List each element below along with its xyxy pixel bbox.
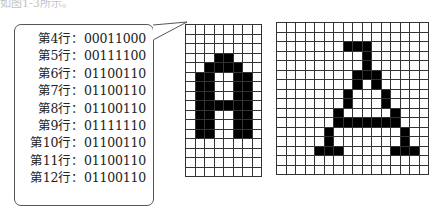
pixel-off: [253, 130, 263, 140]
pixel-off: [325, 33, 335, 43]
pixel-off: [253, 120, 263, 130]
pixel-off: [401, 52, 411, 62]
pixel-off: [334, 61, 344, 71]
pixel-off: [205, 44, 215, 54]
pixel-off: [243, 63, 253, 73]
pixel-off: [344, 128, 354, 138]
pixel-on: [243, 92, 253, 102]
pixel-off: [287, 147, 297, 157]
pixel-off: [287, 42, 297, 52]
pixel-off: [243, 54, 253, 64]
pixel-on: [234, 111, 244, 121]
pixel-on: [196, 130, 206, 140]
pixel-on: [196, 111, 206, 121]
pixel-on: [234, 73, 244, 83]
pixel-off: [344, 137, 354, 147]
pixel-off: [334, 166, 344, 176]
pixel-off: [325, 166, 335, 176]
pixel-on: [196, 92, 206, 102]
pixel-off: [205, 158, 215, 168]
pixel-off: [420, 42, 430, 52]
pixel-on: [205, 73, 215, 83]
pixel-off: [410, 71, 420, 81]
pixel-off: [234, 25, 244, 35]
row-label: 第6行：: [38, 66, 84, 81]
pixel-on: [205, 111, 215, 121]
row-label: 第12行：: [30, 170, 84, 185]
pixel-off: [253, 44, 263, 54]
row-bits: 00011000: [84, 31, 146, 46]
pixel-off: [372, 166, 382, 176]
pixel-off: [391, 166, 401, 176]
row-label: 第5行：: [38, 48, 84, 63]
pixel-off: [382, 23, 392, 33]
pixel-off: [420, 99, 430, 109]
pixel-off: [296, 166, 306, 176]
pixel-off: [334, 137, 344, 147]
pixel-off: [325, 80, 335, 90]
pixel-off: [277, 42, 287, 52]
pixel-on: [344, 118, 354, 128]
row-label: 第10行：: [30, 135, 84, 150]
pixel-off: [306, 61, 316, 71]
pixel-on: [363, 61, 373, 71]
pixel-off: [410, 80, 420, 90]
pixel-off: [243, 149, 253, 159]
pixel-off: [325, 71, 335, 81]
pixel-off: [315, 23, 325, 33]
pixel-off: [186, 101, 196, 111]
pixel-off: [296, 156, 306, 166]
pixel-off: [306, 71, 316, 81]
pixel-off: [353, 109, 363, 119]
pixel-off: [334, 23, 344, 33]
pixel-off: [253, 63, 263, 73]
pixel-off: [315, 80, 325, 90]
pixel-off: [277, 109, 287, 119]
pixel-off: [224, 168, 234, 178]
pixel-off: [391, 99, 401, 109]
pixel-off: [196, 44, 206, 54]
pixel-off: [277, 33, 287, 43]
pixel-off: [401, 156, 411, 166]
row-bits: 01100110: [84, 83, 146, 98]
pixel-off: [420, 128, 430, 138]
pixel-on: [315, 147, 325, 157]
pixel-off: [287, 71, 297, 81]
pixel-off: [224, 73, 234, 83]
pixel-off: [325, 42, 335, 52]
pixel-off: [410, 137, 420, 147]
pixel-off: [277, 61, 287, 71]
pixel-off: [243, 25, 253, 35]
row-label: 第4行：: [38, 31, 84, 46]
pixel-off: [410, 156, 420, 166]
pixel-off: [234, 158, 244, 168]
pixel-off: [353, 156, 363, 166]
row-bits: 01100110: [84, 170, 146, 185]
pixel-off: [243, 158, 253, 168]
pixel-off: [205, 25, 215, 35]
row-bits: 01100110: [84, 135, 146, 150]
pixel-off: [215, 25, 225, 35]
bubble-tail: [153, 20, 189, 44]
pixel-off: [287, 166, 297, 176]
pixel-off: [344, 61, 354, 71]
pixel-off: [353, 90, 363, 100]
pixel-off: [224, 139, 234, 149]
pixel-off: [287, 137, 297, 147]
pixel-off: [372, 156, 382, 166]
pixel-off: [420, 23, 430, 33]
row-bits: 01100110: [84, 101, 146, 116]
pixel-off: [253, 82, 263, 92]
pixel-off: [315, 52, 325, 62]
pixel-off: [306, 137, 316, 147]
pixel-off: [215, 92, 225, 102]
pixel-off: [287, 118, 297, 128]
pixel-off: [215, 73, 225, 83]
pixel-off: [296, 23, 306, 33]
pixel-off: [334, 156, 344, 166]
row-label: 第11行：: [30, 153, 84, 168]
row-label: 第8行：: [38, 101, 84, 116]
pixel-off: [334, 71, 344, 81]
pixel-off: [306, 23, 316, 33]
pixel-off: [382, 61, 392, 71]
